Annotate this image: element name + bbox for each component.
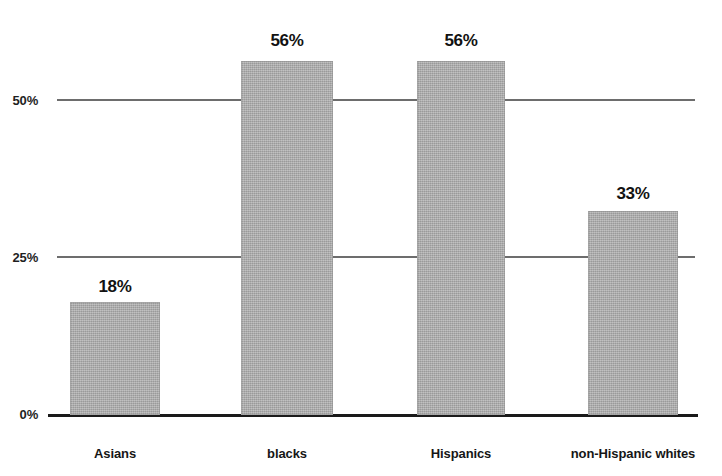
bar-value-asians: 18%: [70, 278, 160, 295]
y-tick-label-0: 0%: [0, 408, 38, 421]
y-tick-label-50: 50%: [0, 94, 38, 107]
bar-blacks[interactable]: [241, 61, 333, 415]
plot-area: 50% 25% 0% 18% Asians 56% blacks 56% His…: [0, 0, 722, 476]
y-tick-label-25: 25%: [0, 251, 38, 264]
bar-non-hispanic-whites[interactable]: [588, 211, 678, 415]
bar-value-blacks: 56%: [241, 32, 333, 49]
bar-value-hispanics: 56%: [417, 32, 505, 49]
category-label-asians: Asians: [60, 447, 170, 461]
bar-hispanics[interactable]: [417, 61, 505, 415]
gridline-50: [57, 99, 695, 101]
category-label-hispanics: Hispanics: [406, 447, 516, 461]
category-label-blacks: blacks: [232, 447, 342, 461]
bar-value-non-hispanic-whites: 33%: [588, 185, 678, 202]
bar-chart-figure: 50% 25% 0% 18% Asians 56% blacks 56% His…: [0, 0, 722, 476]
category-label-non-hispanic-whites: non-Hispanic whites: [558, 447, 708, 461]
bar-asians[interactable]: [70, 302, 160, 415]
